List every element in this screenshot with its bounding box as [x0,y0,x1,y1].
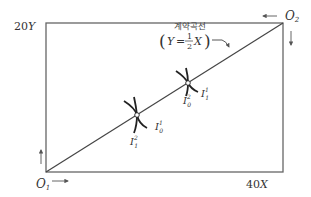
origin2-label: O2 [285,9,300,24]
eq-lhs: Y [167,35,176,48]
ic-label-upper-a: I11 [200,86,209,101]
ic-label-upper-b: I20 [182,93,191,108]
origin1-label: O1 [36,177,50,192]
contract-curve-title: 계약곡선 [174,21,206,31]
tangency-point-upper: I11 I20 [176,68,209,108]
x-max-label: 40X [246,178,269,191]
pointer-arrow-icon [212,40,229,47]
ic-label-lower-b: I21 [129,134,138,149]
y-max-label: 20Y [14,20,37,33]
eq-rhs: X [193,35,203,48]
eq-denominator: 2 [187,42,192,51]
right-paren: ) [204,31,211,51]
tangency-point-lower: I10 I21 [124,97,163,149]
edgeworth-box-diagram: 20Y 40X O1 O2 계약곡선 ( Y = 1 2 X ) I10 I21… [0,0,311,197]
left-paren: ( [159,31,166,51]
eq-numerator: 1 [187,32,192,41]
eq-equals: = [176,35,185,48]
ic-label-lower-a: I10 [154,119,163,134]
